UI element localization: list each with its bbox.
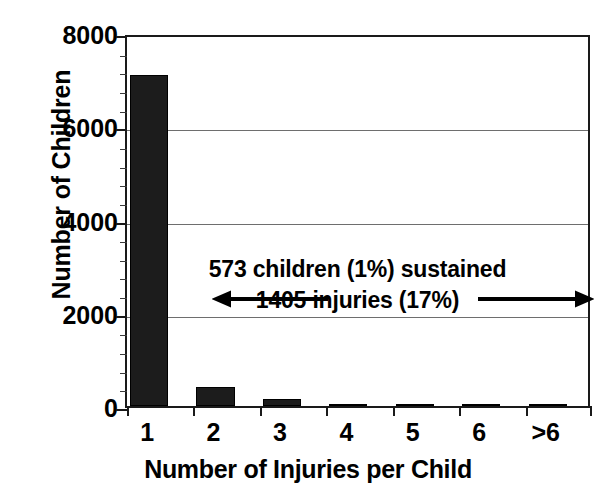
y-tick-minor — [120, 261, 127, 262]
y-tick-minor — [120, 391, 127, 392]
y-tick-minor — [120, 112, 127, 113]
y-tick-label: 8000 — [33, 23, 118, 48]
bar — [196, 387, 234, 406]
bar — [263, 399, 301, 406]
y-tick-major — [116, 223, 127, 225]
y-tick-major — [116, 36, 127, 38]
y-tick-minor — [120, 186, 127, 187]
y-tick-minor — [120, 56, 127, 57]
x-tick — [590, 406, 592, 416]
plot-area: 573 children (1%) sustained 1405 injurie… — [125, 35, 590, 408]
y-tick-minor — [120, 205, 127, 206]
y-axis-tick-labels: 02000400060008000 — [33, 0, 118, 494]
x-axis-title: Number of Injuries per Child — [0, 455, 616, 484]
y-tick-minor — [120, 93, 127, 94]
x-tick — [260, 406, 262, 416]
bar-series — [127, 37, 588, 406]
x-axis-tick-labels: 123456>6 — [125, 419, 590, 453]
x-tick — [193, 406, 195, 416]
x-tick-label: 3 — [273, 419, 287, 445]
y-tick-minor — [120, 335, 127, 336]
x-tick — [459, 406, 461, 416]
y-tick-label: 6000 — [33, 116, 118, 141]
y-tick-minor — [120, 373, 127, 374]
y-tick-minor — [120, 298, 127, 299]
x-tick-label: 5 — [406, 419, 420, 445]
x-tick-label: >6 — [531, 419, 560, 445]
y-tick-minor — [120, 242, 127, 243]
x-tick-label: 6 — [472, 419, 486, 445]
x-tick-label: 1 — [140, 419, 154, 445]
y-tick-minor — [120, 149, 127, 150]
y-tick-label: 4000 — [33, 209, 118, 234]
bar-chart-figure: Number of Children 02000400060008000 573… — [0, 0, 616, 494]
y-tick-major — [116, 316, 127, 318]
y-tick-label: 0 — [33, 396, 118, 421]
bar — [396, 404, 434, 406]
x-tick — [127, 406, 129, 416]
x-tick — [393, 406, 395, 416]
x-tick-label: 2 — [207, 419, 221, 445]
y-tick-major — [116, 409, 127, 411]
x-tick-label: 4 — [339, 419, 353, 445]
y-tick-minor — [120, 168, 127, 169]
y-tick-label: 2000 — [33, 302, 118, 327]
y-tick-minor — [120, 279, 127, 280]
x-tick — [526, 406, 528, 416]
bar — [462, 404, 500, 406]
y-tick-minor — [120, 354, 127, 355]
bar — [529, 404, 567, 406]
y-tick-major — [116, 129, 127, 131]
y-tick-minor — [120, 74, 127, 75]
bar — [329, 404, 367, 406]
bar — [130, 75, 168, 406]
x-tick — [326, 406, 328, 416]
